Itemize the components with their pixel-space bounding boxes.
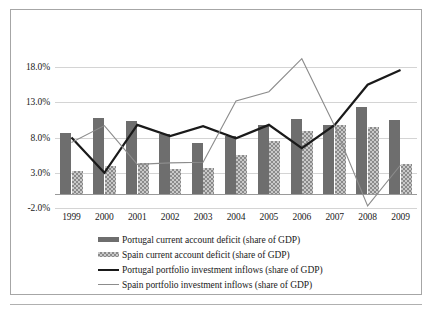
y-axis-tick-label: 8.0%	[31, 133, 50, 143]
y-axis-tick-label: -2.0%	[28, 203, 50, 213]
bar	[138, 163, 149, 194]
legend-swatch-icon	[98, 237, 119, 242]
x-axis-tick-label: 2006	[293, 212, 312, 222]
legend-label: Spain current account deficit (share of …	[122, 250, 290, 260]
bar-group	[159, 53, 182, 208]
bar-group	[192, 53, 215, 208]
bar	[60, 133, 71, 194]
bar	[335, 125, 346, 194]
legend-label: Spain portfolio investment inflows (shar…	[122, 280, 312, 290]
legend-item: Spain current account deficit (share of …	[55, 247, 417, 262]
bar	[225, 136, 236, 194]
bar	[93, 118, 104, 194]
legend-swatch-icon	[98, 252, 119, 257]
bar	[401, 164, 412, 194]
bottom-divider	[10, 304, 422, 305]
x-axis: 1999200020012002200320042005200620072008…	[55, 210, 417, 226]
bar	[203, 168, 214, 194]
plot-area: 18.0%13.0%8.0%3.0%-2.0%	[55, 53, 417, 208]
bar	[269, 141, 280, 194]
x-axis-tick-label: 2002	[161, 212, 180, 222]
x-axis-tick-label: 2009	[391, 212, 410, 222]
bar	[389, 120, 400, 194]
x-axis-tick-label: 2005	[260, 212, 279, 222]
bar	[323, 125, 334, 194]
x-axis-tick-label: 2008	[358, 212, 377, 222]
x-axis-tick-label: 2004	[227, 212, 246, 222]
x-axis-tick-label: 1999	[62, 212, 81, 222]
x-axis-tick-label: 2000	[95, 212, 114, 222]
bar-group	[126, 53, 149, 208]
legend-item: Portugal current account deficit (share …	[55, 232, 417, 247]
bar	[159, 134, 170, 194]
bar	[105, 166, 116, 194]
bar	[192, 143, 203, 194]
chart-frame: 18.0%13.0%8.0%3.0%-2.0% 1999200020012002…	[10, 9, 422, 295]
y-axis-tick-label: 13.0%	[26, 97, 50, 107]
legend-swatch-icon	[98, 269, 119, 271]
bar	[368, 127, 379, 194]
legend-item: Spain portfolio investment inflows (shar…	[55, 277, 417, 292]
bar-group	[93, 53, 116, 208]
bar-group	[323, 53, 346, 208]
bar-group	[356, 53, 379, 208]
bar	[302, 131, 313, 194]
legend-swatch-icon	[98, 284, 119, 285]
bar-group	[389, 53, 412, 208]
legend-item: Portugal portfolio investment inflows (s…	[55, 262, 417, 277]
bar	[236, 155, 247, 194]
y-axis-tick-label: 18.0%	[26, 62, 50, 72]
bar	[356, 107, 367, 194]
x-axis-tick-label: 2007	[325, 212, 344, 222]
bar-group	[258, 53, 281, 208]
gridline	[55, 208, 417, 209]
bar-group	[291, 53, 314, 208]
bar	[170, 169, 181, 194]
bar-group	[225, 53, 248, 208]
legend-label: Portugal current account deficit (share …	[122, 235, 300, 245]
bar	[72, 171, 83, 194]
legend-label: Portugal portfolio investment inflows (s…	[122, 265, 323, 275]
chart-legend: Portugal current account deficit (share …	[55, 232, 417, 292]
bar	[291, 119, 302, 194]
x-axis-tick-label: 2003	[194, 212, 213, 222]
bar	[258, 125, 269, 194]
bar	[126, 121, 137, 194]
x-axis-tick-label: 2001	[128, 212, 147, 222]
bar-group	[60, 53, 83, 208]
y-axis-tick-label: 3.0%	[31, 168, 50, 178]
